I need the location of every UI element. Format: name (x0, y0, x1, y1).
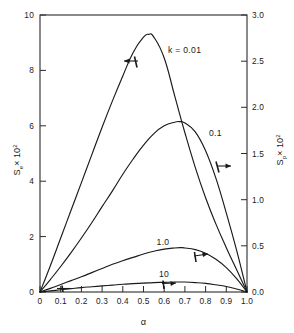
x-tick-09: 0.9 (220, 296, 232, 306)
x-tick-03: 0.3 (96, 296, 108, 306)
axis-arrow-0-1 (216, 162, 231, 173)
y-right-title-exp: 2 (275, 134, 281, 138)
y-axis-right-ticks (241, 15, 247, 292)
x-tick-08: 0.8 (200, 296, 212, 306)
y-left-title-exp: 2 (12, 144, 18, 148)
curve-k-0-1 (40, 121, 247, 292)
x-tick-02: 0.2 (75, 296, 87, 306)
y-left-title-mult: × 10 (12, 148, 22, 166)
x-axis-title: α (141, 317, 147, 327)
x-tick-10: 1.0 (241, 296, 253, 306)
y-left-tick-8: 8 (29, 65, 34, 75)
y-left-tick-6: 6 (29, 121, 34, 131)
axis-arrow-low-alpha (57, 286, 70, 293)
curve-label-10: 10 (159, 269, 169, 279)
curve-label-0-1: 0.1 (209, 128, 222, 138)
chart-canvas: 0 2 4 6 8 10 0.0 0.5 1.0 1.5 2.0 2.5 3.0 (0, 0, 294, 333)
svg-text:Se× 102: Se× 102 (12, 144, 24, 176)
y-left-tick-4: 4 (29, 176, 34, 186)
y-left-tick-2: 2 (29, 232, 34, 242)
y-left-tick-0: 0 (29, 287, 34, 297)
curve-label-1-0: 1.0 (157, 237, 170, 247)
axis-arrow-1-0 (194, 252, 208, 262)
y-axis-left-ticks (40, 15, 46, 292)
x-tick-07: 0.7 (179, 296, 191, 306)
axis-arrow-k-0-01 (124, 57, 138, 68)
x-tick-04: 0.4 (117, 296, 129, 306)
y-right-tick-10: 1.0 (252, 195, 264, 205)
y-right-tick-15: 1.5 (252, 149, 264, 159)
y-right-title-mult: × 10 (275, 138, 285, 156)
chart-figure: 0 2 4 6 8 10 0.0 0.5 1.0 1.5 2.0 2.5 3.0 (0, 0, 294, 333)
y-axis-right-title: Sp× 102 (275, 134, 287, 166)
y-axis-left-title: Se× 102 (12, 144, 24, 176)
y-left-tick-10: 10 (24, 10, 34, 20)
y-right-tick-00: 0.0 (252, 287, 264, 297)
x-tick-0: 0 (38, 296, 43, 306)
x-axis-tick-labels: 0 0.1 0.2 0.3 0.4 0.5 0.6 0.7 0.8 0.9 1.… (38, 296, 254, 306)
y-right-tick-25: 2.5 (252, 56, 264, 66)
curve-label-k-0-01: k = 0.01 (168, 45, 201, 55)
x-tick-01: 0.1 (55, 296, 67, 306)
x-tick-05: 0.5 (137, 296, 149, 306)
y-right-tick-30: 3.0 (252, 10, 264, 20)
x-tick-06: 0.6 (158, 296, 170, 306)
y-right-tick-20: 2.0 (252, 102, 264, 112)
svg-text:Sp× 102: Sp× 102 (275, 134, 287, 166)
y-axis-right-tick-labels: 0.0 0.5 1.0 1.5 2.0 2.5 3.0 (252, 10, 264, 297)
y-right-tick-05: 0.5 (252, 241, 264, 251)
y-axis-left-tick-labels: 0 2 4 6 8 10 (24, 10, 34, 297)
plot-frame (40, 15, 247, 292)
